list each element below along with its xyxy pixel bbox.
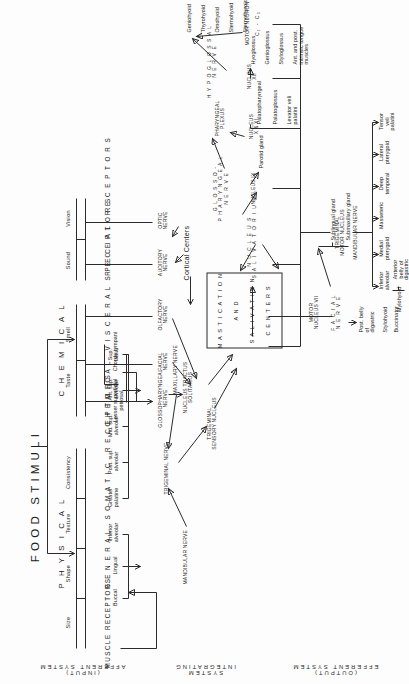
receptor-inferior-alveolar: Inferior alveolar <box>107 516 118 548</box>
inferior-alveolar-sub-1: Anterior belly of digastric <box>392 252 409 286</box>
mandibular-target-2: Masseteric <box>378 198 384 232</box>
gland-submaxillary: Submaxillary gland <box>345 193 351 240</box>
pharyngeal-target-1: Palatoglossus <box>272 89 278 124</box>
mandibular-target-1: Medial pterygoid <box>378 232 389 264</box>
mandibular-target-3: Deep temporal <box>378 168 389 198</box>
pharyngeal-target-2: Levator veli palatini <box>286 95 297 124</box>
quality-shape: Shape <box>65 555 71 591</box>
inferior-alveolar-sub-0: Mylohyoid <box>396 282 402 316</box>
nerve-olfactory: OLFACTORY NERVE <box>157 294 168 334</box>
quality-texture: Texture <box>65 505 71 541</box>
diagram-canvas: FOOD STIMULI P H Y S I C A L C H E M I C… <box>0 0 409 684</box>
quality-taste: Taste <box>65 362 71 398</box>
mandibular-target-5: Tensor veli palatini <box>378 106 395 136</box>
facial-target-1: Stylohyoid <box>382 306 388 332</box>
receptor-chorda-tympani: Chorda tympani <box>112 328 118 374</box>
system-label-integrating-line2: SYSTEM <box>150 670 260 676</box>
quality-sound: Sound <box>65 242 71 278</box>
nucleus-tractus-solitarius: NUCLEUS TRACTUS SOLITARIUS <box>182 352 193 422</box>
motor-neuron-target-4: Sternothyroid <box>242 0 248 32</box>
nerve-facial: FACIAL NERVE <box>157 344 168 378</box>
receptor-buccal: Buccal <box>112 582 118 612</box>
mandibular-target-0: Inferior alveolar <box>378 264 389 296</box>
system-label-afferent-line2: (INPUT) <box>22 670 142 676</box>
receptor-post-sup-alveolar: Post. sup. alveolar <box>107 444 118 478</box>
nucleus-trigeminal-sensory: TRIGEMINAL SENSORY NUCLEUS <box>206 388 217 458</box>
motor-nucleus-vii: MOTOR NUCLEUS VII <box>308 288 319 336</box>
motor-neuron-target-2: Omohyoid <box>214 7 220 32</box>
mandibular-target-4: Lateral pterygoid <box>378 136 389 168</box>
hypoglossal-target-2: Styloglossus <box>278 33 284 64</box>
system-label-efferent-line2: (OUTPUT) <box>272 670 398 676</box>
center-line-2: A N D <box>233 265 239 355</box>
center-line-3: S A L I V A T I O N <box>249 265 255 355</box>
receptor-lingual: Lingual <box>112 550 118 580</box>
nerve-optic: OPTIC NERVE <box>157 204 168 236</box>
group-muscle-receptors: MUSCLE RECEPTORS <box>104 577 111 668</box>
cortical-centers-label: Cortical Centers <box>182 225 190 280</box>
quality-size: Size <box>65 604 71 640</box>
nerve-trigeminal: TRIGEMINAL NERVE <box>163 442 168 494</box>
hypoglossal-target-1: Genioglossus <box>264 30 270 64</box>
system-label-afferent-line1: AFFERENT SYSTEM <box>22 664 142 670</box>
nucleus-salivatorius: N U C L E U S S A L I V A T O R I U S <box>246 204 257 278</box>
nerve-mandibular: MANDIBULAR NERVE <box>182 529 187 584</box>
system-label-afferent: (INPUT) AFFERENT SYSTEM <box>22 664 142 676</box>
motor-neuron-target-1: Thyrohyoid <box>200 4 206 32</box>
system-label-efferent: (OUTPUT) EFFERENT SYSTEM <box>272 664 398 676</box>
group-special-receptors: S P E C I A L R E C E P T O R S <box>104 136 111 280</box>
system-label-efferent-line1: EFFERENT SYSTEM <box>272 664 398 670</box>
system-label-integrating-line1: INTEGRATING <box>150 664 260 670</box>
receptor-lesser-superficial-petrosal: Lesser superficial petrosal <box>112 374 123 426</box>
motor-neuron-segments: C₁ - C₃ <box>254 0 259 52</box>
motor-neuron-target-0: Geniohyoid <box>186 4 192 32</box>
nucleus-ix: NUCLEUS IX <box>250 162 255 214</box>
mandibular-nerve-motor: MANDIBULAR NERVE <box>352 194 357 270</box>
system-label-integrating: SYSTEM INTEGRATING <box>150 664 260 676</box>
nerve-auditory: AUDITORY NERVE <box>157 244 168 280</box>
receptor-greater-palatine: Greater palatine <box>107 480 118 514</box>
mastication-and-salivation-centers-box: M A S T I C A T I O N A N D S A L I V A … <box>206 272 282 348</box>
glossopharyngeal-nerve-motor: G L O S S O - P H A R Y N G E A L N E R … <box>212 148 228 228</box>
center-line-1: M A S T I C A T I O N <box>217 265 223 355</box>
facial-nerve-motor: F A C I A L N E R V E <box>330 288 341 336</box>
diagram-page: FOOD STIMULI P H Y S I C A L C H E M I C… <box>0 0 409 684</box>
trigeminal-motor-nucleus: TRIGEMINAL MOTOR NUCLEUS <box>334 194 345 270</box>
quality-vision: Vision <box>65 200 71 236</box>
motor-neuron-target-3: Sternohyoid <box>228 2 234 32</box>
facial-target-0: Post. belly of digastric <box>358 306 375 332</box>
page-title: FOOD STIMULI <box>16 429 52 606</box>
nerve-maxillary: MAXILLARY NERVE <box>172 345 177 394</box>
hypoglossal-target-3: Ant. and post. intrinsic tongue muscles <box>292 26 309 64</box>
center-line-4: C E N T E R S <box>265 265 271 355</box>
quality-consistency: Consistency <box>65 450 71 494</box>
quality-smell: Smell <box>65 316 71 352</box>
